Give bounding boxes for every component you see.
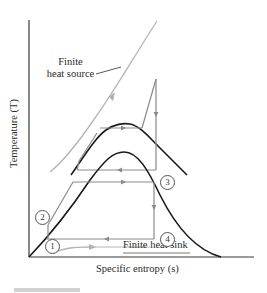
state-4-marker: 4	[160, 232, 175, 247]
state-3-marker: 3	[160, 175, 175, 190]
upper-right-arrow-icon	[154, 112, 159, 117]
lower-bottom-arrow-icon	[104, 237, 109, 242]
heat-source-leader	[96, 67, 121, 74]
upper-bottom-arrow-icon	[117, 168, 122, 173]
lower-cycle	[46, 182, 154, 239]
state-1-marker: 1	[45, 239, 60, 254]
heat-sink-label: Finite heat sink	[123, 239, 188, 251]
upper-saturation-dome	[71, 124, 187, 175]
state-2-marker: 2	[35, 210, 50, 225]
heat-source-label: Finite heat source	[43, 56, 98, 80]
caption-placeholder-bar	[14, 288, 80, 292]
lower-top-arrow-icon	[121, 180, 126, 185]
lower-right-arrow-icon	[152, 205, 157, 210]
heat-source-curve	[50, 21, 157, 172]
heat-source-label-line2: heat source	[43, 68, 98, 80]
y-axis-label: Temperature (T)	[8, 99, 19, 168]
upper-top-arrow-icon	[121, 126, 126, 131]
heat-source-label-line1: Finite	[43, 56, 98, 68]
x-axis-label: Specific entropy (s)	[96, 263, 179, 274]
